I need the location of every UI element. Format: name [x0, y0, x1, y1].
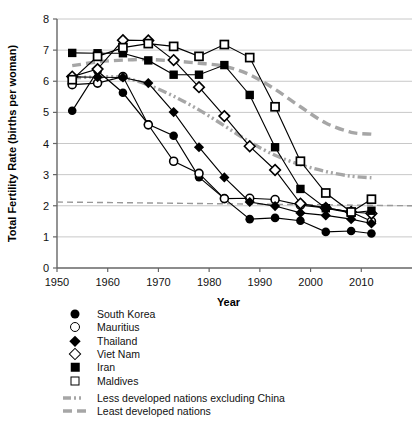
- marker-maldives-7: [246, 54, 254, 62]
- marker-mauritius-6: [220, 195, 228, 203]
- dashed-line-icon: [62, 404, 92, 418]
- legend-item-label: Maldives: [92, 374, 138, 388]
- marker-south-korea-11: [347, 227, 356, 236]
- marker-maldives-12: [367, 195, 375, 203]
- fertility-rate-chart: 0123456781950196019701980199020002010Yea…: [0, 0, 416, 310]
- marker-mauritius-3: [144, 121, 152, 129]
- filled-diamond-icon: [62, 334, 92, 348]
- chart-legend: South KoreaMauritiusThailandViet NamIran…: [0, 307, 416, 427]
- chart-plot-area: 0123456781950196019701980199020002010Yea…: [0, 0, 416, 310]
- legend-item-south-korea: South Korea: [62, 307, 155, 321]
- filled-square-icon: [62, 360, 92, 374]
- marker-maldives-4: [170, 42, 178, 50]
- marker-south-korea-10: [321, 228, 330, 237]
- legend-item-mauritius: Mauritius: [62, 320, 140, 334]
- marker-iran-7: [246, 91, 254, 99]
- open-circle-icon: [62, 320, 92, 334]
- y-tick-label-2: 2: [43, 200, 49, 212]
- marker-iran-12: [367, 207, 375, 215]
- series-mauritius: [68, 73, 375, 226]
- marker-maldives-10: [322, 189, 330, 197]
- marker-iran-8: [271, 143, 279, 151]
- x-tick-label-2010: 2010: [349, 276, 373, 288]
- marker-maldives-6: [220, 41, 228, 49]
- open-diamond-icon: [62, 347, 92, 361]
- x-tick-label-2000: 2000: [298, 276, 322, 288]
- gridlines: [57, 19, 412, 268]
- y-axis-title: Total Fertility Rate (births per woman): [6, 45, 18, 243]
- legend-item-label: Least developed nations: [92, 404, 211, 418]
- marker-maldives-9: [296, 157, 304, 165]
- marker-iran-0: [68, 49, 76, 57]
- marker-south-korea-0: [68, 107, 77, 116]
- x-tick-label-1970: 1970: [146, 276, 170, 288]
- marker-south-korea-8: [271, 214, 280, 223]
- y-tick-label-1: 1: [43, 231, 49, 243]
- y-tick-label-4: 4: [43, 138, 49, 150]
- y-tick-label-0: 0: [43, 262, 49, 274]
- legend-item-label: South Korea: [92, 307, 155, 321]
- legend-item-thailand: Thailand: [62, 334, 137, 348]
- legend-item-label: Less developed nations excluding China: [92, 391, 285, 405]
- filled-circle-icon: [62, 307, 92, 321]
- legend-item-less-developed-nations-excluding-china: Less developed nations excluding China: [62, 391, 285, 405]
- series-line-less-developed-nations-excluding-china: [72, 77, 371, 178]
- x-tick-label-1960: 1960: [95, 276, 119, 288]
- legend-item-iran: Iran: [62, 360, 115, 374]
- marker-iran-6: [220, 61, 228, 69]
- marker-south-korea-7: [245, 215, 254, 224]
- axis-lines: [53, 19, 412, 272]
- marker-maldives-11: [347, 208, 355, 216]
- y-tick-label-6: 6: [43, 75, 49, 87]
- legend-item-maldives: Maldives: [62, 374, 138, 388]
- x-tick-label-1990: 1990: [248, 276, 272, 288]
- legend-item-label: Viet Nam: [92, 347, 140, 361]
- legend-item-label: Mauritius: [92, 320, 140, 334]
- legend-item-label: Thailand: [92, 334, 137, 348]
- marker-iran-9: [296, 185, 304, 193]
- dash-dot-line-icon: [62, 391, 92, 405]
- marker-south-korea-4: [169, 131, 178, 140]
- marker-maldives-2: [119, 44, 127, 52]
- marker-south-korea-12: [367, 229, 376, 238]
- marker-maldives-3: [144, 40, 152, 48]
- marker-mauritius-5: [195, 169, 203, 177]
- series-line-replacement-level-reference: [57, 202, 412, 206]
- marker-iran-3: [144, 56, 152, 64]
- tick-labels: 0123456781950196019701980199020002010: [43, 13, 374, 288]
- marker-south-korea-2: [119, 88, 128, 97]
- series-replacement-level-reference: [57, 202, 412, 206]
- marker-iran-10: [322, 204, 330, 212]
- marker-iran-4: [169, 71, 177, 79]
- marker-maldives-0: [68, 76, 76, 84]
- y-tick-label-5: 5: [43, 106, 49, 118]
- y-tick-label-8: 8: [43, 13, 49, 25]
- marker-iran-5: [195, 71, 203, 79]
- x-tick-label-1980: 1980: [197, 276, 221, 288]
- open-square-icon: [62, 374, 92, 388]
- legend-item-viet-nam: Viet Nam: [62, 347, 140, 361]
- marker-maldives-5: [195, 52, 203, 60]
- marker-maldives-1: [94, 52, 102, 60]
- legend-item-label: Iran: [92, 360, 115, 374]
- x-tick-label-1950: 1950: [45, 276, 69, 288]
- legend-item-least-developed-nations: Least developed nations: [62, 404, 211, 418]
- chart-screenshot: 0123456781950196019701980199020002010Yea…: [0, 0, 416, 427]
- y-tick-label-7: 7: [43, 44, 49, 56]
- marker-mauritius-4: [170, 157, 178, 165]
- marker-maldives-8: [271, 103, 279, 111]
- y-tick-label-3: 3: [43, 169, 49, 181]
- series-less-developed-nations-excluding-china: [72, 77, 371, 178]
